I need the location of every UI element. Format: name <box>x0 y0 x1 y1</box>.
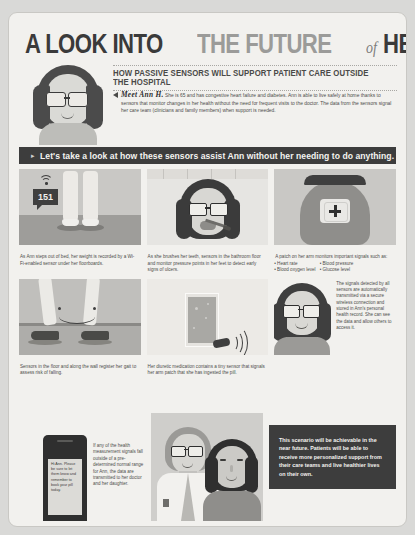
bubble <box>205 317 207 319</box>
bubble <box>207 303 209 305</box>
tile-line <box>211 169 212 179</box>
gait-sensing-arc <box>59 309 95 324</box>
tile-strip <box>147 169 269 179</box>
banner-text: Let's take a look at how these sensors a… <box>40 151 394 161</box>
subtitle-bar: HOW PASSIVE SENSORS WILL SUPPORT PATIENT… <box>113 65 397 91</box>
shoulders-shape <box>274 337 330 355</box>
phone-caption: If any of the health measurement signals… <box>93 443 145 488</box>
glasses-left-lens <box>46 92 66 107</box>
bottom-section: Hi Ann. Please be sure to let them know … <box>19 403 396 521</box>
vitals-list-left: Heart rate Blood oxygen level <box>274 261 315 274</box>
vitals-list-right: Blood pressure Glucose level <box>320 261 354 274</box>
triangle-pointer-icon <box>113 92 118 98</box>
foot-right <box>82 219 99 226</box>
panel-row-2: Sensors in the floor and along the wall … <box>19 279 396 377</box>
title-part3: HEALTH CARE <box>383 29 407 60</box>
signal-wave-3 <box>229 327 248 355</box>
foot-left <box>62 219 79 226</box>
panel-caption: Her diuretic medication contains a tiny … <box>147 360 269 377</box>
wifi-dot <box>45 182 48 185</box>
glasses-right-lens <box>188 446 203 457</box>
nose-shape <box>230 465 233 472</box>
conclusion-text: This scenario will be achievable in the … <box>269 436 396 478</box>
shoe-right <box>81 331 109 340</box>
panel-row-1: 151 As Ann steps out of bed, her weight … <box>19 169 396 274</box>
illustration-health-record: The signals detected by all sensors are … <box>274 279 396 355</box>
illustration-arm-patch <box>274 169 396 245</box>
weight-value: 151 <box>38 192 53 202</box>
wave-divider <box>19 403 396 408</box>
eye-left <box>220 459 226 461</box>
plus-icon-horizontal <box>329 210 341 213</box>
illustration-smart-pill <box>147 279 269 355</box>
phone-alert-text: Hi Ann. Please be sure to let them know … <box>48 459 82 496</box>
panel-phone-alert: Hi Ann. Please be sure to let them know … <box>19 413 147 521</box>
glasses-right-lens <box>303 305 320 318</box>
vitals-bullet-lists: Heart rate Blood oxygen level Blood pres… <box>274 261 396 274</box>
phone-screen: Hi Ann. Please be sure to let them know … <box>48 459 82 515</box>
page-title: A LOOK INTO THE FUTURE of HEALTH CARE <box>25 29 397 59</box>
illustration-weight-scale: 151 <box>19 169 141 245</box>
illustration-floor-gait <box>19 279 141 355</box>
list-item: Blood oxygen level <box>274 267 315 273</box>
sleeve-shape <box>304 175 366 185</box>
illustration-care-team <box>151 413 263 521</box>
subtitle-text: HOW PASSIVE SENSORS WILL SUPPORT PATIENT… <box>113 69 383 87</box>
glasses-left-lens <box>189 203 207 216</box>
bubble <box>195 307 198 310</box>
hair-left <box>205 457 218 493</box>
panel-caption: Sensors in the floor and along the wall … <box>19 360 141 377</box>
panel-health-record: The signals detected by all sensors are … <box>274 279 396 377</box>
tile-line <box>235 169 236 179</box>
glasses-bridge <box>64 97 70 99</box>
panel-caption: A patch on her arm monitors important si… <box>274 250 396 261</box>
shoe-left <box>31 331 59 340</box>
list-item: Glucose level <box>320 267 354 273</box>
panel-smart-pill: Her diuretic medication contains a tiny … <box>147 279 269 377</box>
conclusion-box: This scenario will be achievable in the … <box>269 425 396 489</box>
glasses-right-lens <box>68 92 88 107</box>
glasses-left-lens <box>171 446 186 457</box>
glasses-left-lens <box>283 305 300 318</box>
shoulders-shape <box>203 491 261 521</box>
weight-readout-bubble: 151 <box>33 189 58 205</box>
chevron-right-icon: ▸ <box>31 152 35 159</box>
hair-right <box>245 457 258 493</box>
panel-weight-scale: 151 As Ann steps out of bed, her weight … <box>19 169 141 274</box>
id-badge <box>163 499 169 507</box>
title-connector: of <box>366 38 377 58</box>
glasses-bridge <box>184 449 188 450</box>
title-part2: THE FUTURE <box>197 29 331 60</box>
title-part1: A LOOK INTO <box>25 29 163 60</box>
panel-caption: As Ann steps out of bed, her weight is r… <box>19 250 141 267</box>
water-shape <box>188 297 216 343</box>
phone-speaker <box>57 440 73 442</box>
transition-banner: ▸ Let's take a look at how these sensors… <box>19 147 396 164</box>
glasses-bridge <box>298 309 303 311</box>
intro-lead: Meet Ann H. <box>121 90 164 99</box>
hair-right <box>86 85 103 129</box>
panel-caption: As she brushes her teeth, sensors in the… <box>147 250 269 274</box>
shoulders-shape <box>39 123 97 145</box>
panel-grid: 151 As Ann steps out of bed, her weight … <box>19 169 396 382</box>
intro-block: Meet Ann H. She is 65 and has congestive… <box>121 91 397 115</box>
illustration-teeth-brushing <box>147 169 269 245</box>
glasses-bridge <box>205 207 210 209</box>
ann-portrait-header <box>31 65 105 143</box>
health-record-text: The signals detected by all sensors are … <box>336 281 394 331</box>
leg-right <box>83 171 98 221</box>
tile-line <box>163 169 164 179</box>
eye-right <box>237 459 243 461</box>
panel-teeth-brushing: As she brushes her teeth, sensors in the… <box>147 169 269 274</box>
panel-floor-gait: Sensors in the floor and along the wall … <box>19 279 141 377</box>
leg-left <box>63 171 78 221</box>
intro-paragraph: Meet Ann H. She is 65 and has congestive… <box>121 91 397 115</box>
glasses-right-lens <box>210 203 228 216</box>
panel-arm-patch: A patch on her arm monitors important si… <box>274 169 396 274</box>
tile-line <box>187 169 188 179</box>
infographic-page: A LOOK INTO THE FUTURE of HEALTH CARE HO… <box>8 12 407 527</box>
